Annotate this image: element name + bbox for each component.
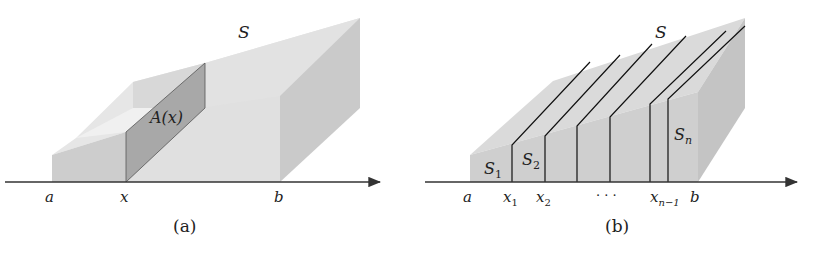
solid-label-a: S [238, 22, 250, 42]
panel-a: S A(x) a x b (a) [5, 18, 380, 236]
panel-b: S S1 S2 Sn a x1 x2 · · · xn−1 b (b) [425, 18, 797, 236]
caption-b: (b) [605, 216, 629, 236]
axis-label-x2: x2 [536, 188, 551, 208]
caption-a: (a) [173, 216, 196, 236]
figure-canvas: S A(x) a x b (a) S S1 S2 Sn a [0, 0, 813, 256]
axis-dots: · · · [596, 188, 617, 203]
axis-label-x: x [120, 188, 129, 206]
axis-label-a: a [45, 188, 54, 206]
solid-label-b: S [655, 22, 667, 42]
solid-s-a [52, 18, 360, 182]
axis-label-a-b: a [463, 188, 472, 206]
axis-label-x1: x1 [503, 188, 518, 208]
axis-label-xn-1: xn−1 [650, 188, 680, 208]
cross-section-label: A(x) [148, 108, 183, 127]
axis-label-b: b [274, 188, 284, 206]
axis-label-b-b: b [690, 188, 700, 206]
solid-s-b [470, 18, 745, 182]
